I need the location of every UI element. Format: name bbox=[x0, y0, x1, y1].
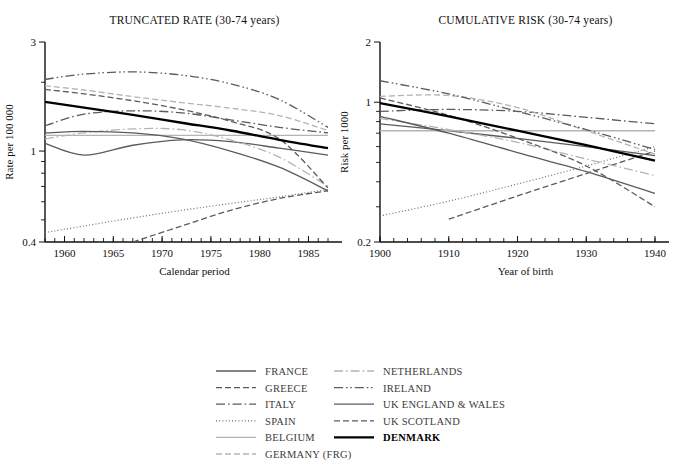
figure-container: TRUNCATED RATE (30-74 years)0.431Rate pe… bbox=[0, 0, 700, 464]
series-line-ireland bbox=[380, 81, 655, 150]
y-tick-label-truncated-rate: 1 bbox=[31, 145, 37, 157]
y-tick-label-truncated-rate: 3 bbox=[31, 36, 37, 48]
legend-label-uk-england-wales: UK ENGLAND & WALES bbox=[383, 399, 505, 410]
legend-item-denmark[interactable]: DENMARK bbox=[334, 432, 441, 443]
y-tick-label-truncated-rate: 0.4 bbox=[22, 236, 36, 248]
x-tick-label-truncated-rate: 1970 bbox=[151, 247, 174, 259]
series-line-uk-scotland bbox=[45, 89, 328, 187]
x-axis-label-cumulative-risk: Year of birth bbox=[498, 265, 554, 277]
x-axis-label-truncated-rate: Calendar period bbox=[159, 265, 230, 277]
panel-truncated-rate: TRUNCATED RATE (30-74 years)0.431Rate pe… bbox=[3, 14, 342, 277]
legend-item-uk-england-wales[interactable]: UK ENGLAND & WALES bbox=[334, 399, 505, 410]
x-tick-label-cumulative-risk: 1920 bbox=[507, 247, 530, 259]
x-tick-label-cumulative-risk: 1940 bbox=[644, 247, 667, 259]
legend-label-greece: GREECE bbox=[265, 383, 308, 394]
panel-cumulative-risk: CUMULATIVE RISK (30-74 years)0.221Risk p… bbox=[338, 14, 669, 277]
legend-label-spain: SPAIN bbox=[265, 416, 296, 427]
legend-label-ireland: IRELAND bbox=[383, 383, 431, 394]
legend-label-denmark: DENMARK bbox=[383, 432, 441, 443]
legend-item-italy[interactable]: ITALY bbox=[216, 399, 296, 410]
legend-item-greece[interactable]: GREECE bbox=[216, 383, 308, 394]
series-line-ireland bbox=[45, 72, 328, 127]
legend-item-france[interactable]: FRANCE bbox=[216, 366, 308, 377]
series-line-spain bbox=[45, 189, 328, 232]
series-line-netherlands bbox=[45, 128, 328, 186]
series-line-spain bbox=[380, 147, 655, 216]
x-tick-label-truncated-rate: 1975 bbox=[200, 247, 223, 259]
x-tick-label-truncated-rate: 1985 bbox=[297, 247, 320, 259]
legend-item-netherlands[interactable]: NETHERLANDS bbox=[334, 366, 463, 377]
y-tick-label-cumulative-risk: 1 bbox=[366, 96, 372, 108]
y-tick-label-cumulative-risk: 2 bbox=[366, 36, 372, 48]
x-tick-label-cumulative-risk: 1930 bbox=[575, 247, 598, 259]
legend-label-italy: ITALY bbox=[265, 399, 296, 410]
x-tick-label-truncated-rate: 1960 bbox=[54, 247, 77, 259]
legend-label-france: FRANCE bbox=[265, 366, 308, 377]
x-tick-label-truncated-rate: 1965 bbox=[102, 247, 125, 259]
legend-item-germany-frg-[interactable]: GERMANY (FRG) bbox=[216, 449, 352, 461]
legend-item-spain[interactable]: SPAIN bbox=[216, 416, 296, 427]
series-line-netherlands bbox=[380, 118, 655, 175]
y-axis-label-truncated-rate: Rate per 100 000 bbox=[3, 104, 15, 180]
series-line-denmark bbox=[45, 102, 328, 148]
legend-item-uk-scotland[interactable]: UK SCOTLAND bbox=[334, 416, 460, 427]
series-line-greece bbox=[133, 191, 328, 242]
legend-label-belgium: BELGIUM bbox=[265, 432, 315, 443]
series-line-italy bbox=[45, 111, 328, 133]
legend-label-netherlands: NETHERLANDS bbox=[383, 366, 463, 377]
y-axis-label-cumulative-risk: Risk per 1000 bbox=[338, 111, 350, 173]
x-tick-label-cumulative-risk: 1910 bbox=[438, 247, 461, 259]
legend: FRANCEGREECEITALYSPAINBELGIUMGERMANY (FR… bbox=[216, 366, 505, 461]
legend-label-uk-scotland: UK SCOTLAND bbox=[383, 416, 460, 427]
legend-item-belgium[interactable]: BELGIUM bbox=[216, 432, 315, 443]
x-tick-label-cumulative-risk: 1900 bbox=[369, 247, 392, 259]
panel-title-cumulative-risk: CUMULATIVE RISK (30-74 years) bbox=[438, 14, 612, 27]
chart-svg: TRUNCATED RATE (30-74 years)0.431Rate pe… bbox=[0, 0, 700, 464]
legend-item-ireland[interactable]: IRELAND bbox=[334, 383, 431, 394]
legend-label-germany-frg-: GERMANY (FRG) bbox=[265, 449, 352, 461]
x-tick-label-truncated-rate: 1980 bbox=[249, 247, 272, 259]
panel-title-truncated-rate: TRUNCATED RATE (30-74 years) bbox=[109, 14, 279, 27]
